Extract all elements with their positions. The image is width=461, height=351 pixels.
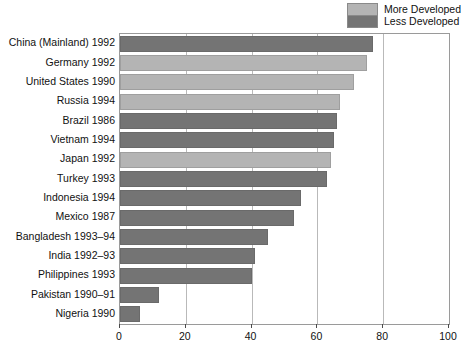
y-axis-label: United States 1990 <box>0 76 115 87</box>
bar[interactable] <box>120 74 354 90</box>
x-axis-tick-100 <box>448 324 449 328</box>
bar[interactable] <box>120 152 331 168</box>
bar-row <box>120 111 449 130</box>
legend-swatch-less-developed <box>348 15 377 27</box>
legend-label-more-developed: More Developed <box>384 3 461 15</box>
y-axis-label: Japan 1992 <box>0 153 115 164</box>
y-axis-label: Turkey 1993 <box>0 173 115 184</box>
x-axis-tick-60 <box>316 324 317 328</box>
y-axis-label: China (Mainland) 1992 <box>0 37 115 48</box>
y-axis-label: Bangladesh 1993–94 <box>0 231 115 242</box>
bar[interactable] <box>120 55 367 71</box>
bar[interactable] <box>120 210 294 226</box>
bar[interactable] <box>120 268 252 284</box>
bar[interactable] <box>120 287 159 303</box>
legend-label-less-developed: Less Developed <box>384 15 461 27</box>
bar-row <box>120 92 449 111</box>
y-axis-label: India 1992–93 <box>0 250 115 261</box>
bar-row <box>120 208 449 227</box>
bar[interactable] <box>120 132 334 148</box>
x-axis-tick-label-0: 0 <box>116 330 122 342</box>
y-axis-label: Nigeria 1990 <box>0 308 115 319</box>
y-axis-label: Mexico 1987 <box>0 211 115 222</box>
y-axis-label: Germany 1992 <box>0 57 115 68</box>
legend-swatch-group <box>347 3 378 28</box>
x-axis: 020406080100 <box>119 324 450 350</box>
bar-row <box>120 73 449 92</box>
y-axis-label: Pakistan 1990–91 <box>0 289 115 300</box>
bar[interactable] <box>120 248 255 264</box>
bar[interactable] <box>120 113 337 129</box>
bar[interactable] <box>120 171 327 187</box>
bar[interactable] <box>120 306 140 322</box>
bar-row <box>120 266 449 285</box>
y-axis-label: Russia 1994 <box>0 95 115 106</box>
bar-row <box>120 150 449 169</box>
y-axis-label: Philippines 1993 <box>0 269 115 280</box>
bar-row <box>120 53 449 72</box>
y-axis-label: Vietnam 1994 <box>0 134 115 145</box>
x-axis-tick-0 <box>119 324 120 328</box>
bar[interactable] <box>120 190 301 206</box>
legend-swatch-more-developed <box>348 4 377 15</box>
bar[interactable] <box>120 94 340 110</box>
bar-row <box>120 285 449 304</box>
bar-row <box>120 169 449 188</box>
x-axis-tick-label-60: 60 <box>311 330 323 342</box>
bar-series <box>120 34 449 324</box>
legend-label-group: More Developed Less Developed <box>384 3 461 27</box>
x-axis-tick-20 <box>185 324 186 328</box>
chart-legend: More Developed Less Developed <box>347 3 461 28</box>
bar-row <box>120 189 449 208</box>
x-axis-tick-label-20: 20 <box>179 330 191 342</box>
bar[interactable] <box>120 229 268 245</box>
y-axis-label: Brazil 1986 <box>0 115 115 126</box>
bar[interactable] <box>120 36 373 52</box>
x-axis-tick-label-80: 80 <box>376 330 388 342</box>
bar-row <box>120 34 449 53</box>
x-axis-tick-80 <box>382 324 383 328</box>
bar-row <box>120 305 449 324</box>
plot-area <box>119 33 450 325</box>
bar-row <box>120 131 449 150</box>
bar-row <box>120 227 449 246</box>
bar-row <box>120 247 449 266</box>
x-axis-tick-label-40: 40 <box>245 330 257 342</box>
x-axis-tick-label-100: 100 <box>439 330 457 342</box>
y-axis-label: Indonesia 1994 <box>0 192 115 203</box>
x-axis-tick-40 <box>251 324 252 328</box>
